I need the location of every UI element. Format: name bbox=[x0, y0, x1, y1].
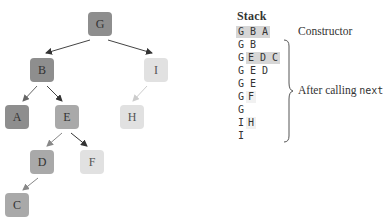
edge-e-d bbox=[47, 133, 62, 146]
stack-row-plain: G bbox=[236, 91, 246, 103]
tree-node-c: C bbox=[5, 193, 29, 217]
stack-row-plain: I bbox=[236, 130, 246, 142]
stack-row-plain: G bbox=[236, 104, 246, 116]
stack-row: GF bbox=[236, 91, 256, 103]
binary-tree-diagram: G B I A E H D F C bbox=[0, 0, 200, 219]
tree-node-b: B bbox=[30, 58, 54, 82]
stack-row-faint: F bbox=[246, 91, 256, 103]
curly-brace-icon bbox=[282, 38, 296, 144]
after-calling-next-label: After calling next bbox=[298, 84, 383, 96]
edge-g-b bbox=[46, 40, 90, 53]
stack-row: G E bbox=[236, 78, 258, 90]
tree-node-i: I bbox=[144, 58, 168, 82]
node-label: I bbox=[154, 63, 158, 78]
node-label: A bbox=[13, 110, 22, 125]
stack-row-plain: G bbox=[236, 52, 246, 64]
stack-row-plain: G E bbox=[236, 78, 258, 90]
stack-row: GE D C bbox=[236, 52, 280, 64]
tree-node-e: E bbox=[55, 105, 79, 129]
stack-title: Stack bbox=[237, 9, 267, 24]
stack-row: G B A bbox=[236, 26, 270, 38]
edge-b-a bbox=[23, 86, 37, 101]
stack-row: G E D bbox=[236, 65, 270, 77]
node-label: D bbox=[38, 155, 47, 170]
edge-b-e bbox=[47, 86, 62, 101]
node-label: F bbox=[89, 155, 96, 170]
edge-d-c bbox=[23, 178, 38, 190]
edge-g-i bbox=[108, 40, 152, 53]
stack-row-highlight: E D C bbox=[246, 52, 280, 64]
tree-node-d: D bbox=[30, 150, 54, 174]
tree-node-g: G bbox=[88, 12, 112, 36]
node-label: E bbox=[63, 110, 70, 125]
stack-row-faint: H bbox=[246, 117, 256, 129]
node-label: G bbox=[96, 17, 105, 32]
constructor-label: Constructor bbox=[298, 25, 352, 37]
next-method-code: next bbox=[359, 85, 383, 96]
node-label: H bbox=[128, 110, 137, 125]
stack-row-plain: G B bbox=[236, 39, 258, 51]
tree-node-f: F bbox=[80, 150, 104, 174]
after-calling-text: After calling bbox=[298, 84, 359, 96]
edge-i-h bbox=[133, 86, 147, 101]
stack-row-plain: I bbox=[236, 117, 246, 129]
tree-node-h: H bbox=[120, 105, 144, 129]
stack-row: G bbox=[236, 104, 246, 116]
stack-row-plain: G E D bbox=[236, 65, 270, 77]
stack-row: I bbox=[236, 130, 246, 142]
stack-row-highlight: G B A bbox=[236, 26, 270, 38]
tree-node-a: A bbox=[5, 105, 29, 129]
edge-e-f bbox=[71, 133, 87, 146]
stack-row: IH bbox=[236, 117, 256, 129]
node-label: C bbox=[13, 198, 21, 213]
stack-row: G B bbox=[236, 39, 258, 51]
node-label: B bbox=[38, 63, 46, 78]
